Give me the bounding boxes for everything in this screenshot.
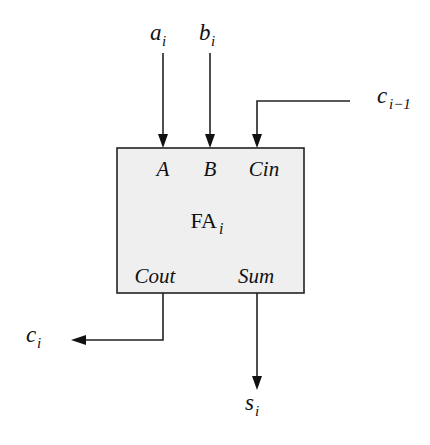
signal-b-main: b [199, 20, 211, 45]
input-cin-wire [252, 101, 350, 148]
full-adder-block: A B Cin FA i Cout Sum [117, 148, 304, 293]
arrow-down-icon [252, 376, 262, 390]
port-b-label: B [204, 157, 217, 181]
signal-a-sub: i [162, 33, 166, 49]
block-name-subscript: i [219, 220, 223, 237]
full-adder-diagram: A B Cin FA i Cout Sum a i b i c i−1 [0, 0, 430, 445]
signal-sum-label: s [245, 390, 254, 415]
arrow-down-icon [158, 134, 168, 148]
signal-cout-sub: i [37, 335, 41, 351]
arrow-left-icon [71, 335, 86, 345]
arrow-down-icon [205, 134, 215, 148]
port-sum-label: Sum [238, 264, 274, 288]
signal-cout-label: c [26, 322, 36, 347]
signal-sum-sub: i [255, 403, 259, 419]
port-cin-label: Cin [249, 157, 279, 181]
signal-b-sub: i [211, 33, 215, 49]
signal-sum-main: s [245, 390, 254, 415]
signal-cin-label: c [377, 83, 387, 108]
arrow-down-icon [252, 134, 262, 148]
signal-cin-sub: i−1 [389, 96, 411, 112]
input-b-wire [205, 53, 215, 148]
signal-b-label: b [199, 20, 211, 45]
port-cout-label: Cout [135, 264, 177, 288]
signal-a-label: a [150, 20, 162, 45]
port-a-label: A [155, 157, 170, 181]
signal-cout-main: c [26, 322, 36, 347]
block-name: FA [191, 208, 218, 233]
input-a-wire [158, 53, 168, 148]
signal-a-main: a [150, 20, 162, 45]
output-cout-wire [71, 293, 163, 345]
signal-cin-main: c [377, 83, 387, 108]
output-sum-wire [252, 293, 262, 390]
block-name-main: FA [191, 208, 218, 233]
